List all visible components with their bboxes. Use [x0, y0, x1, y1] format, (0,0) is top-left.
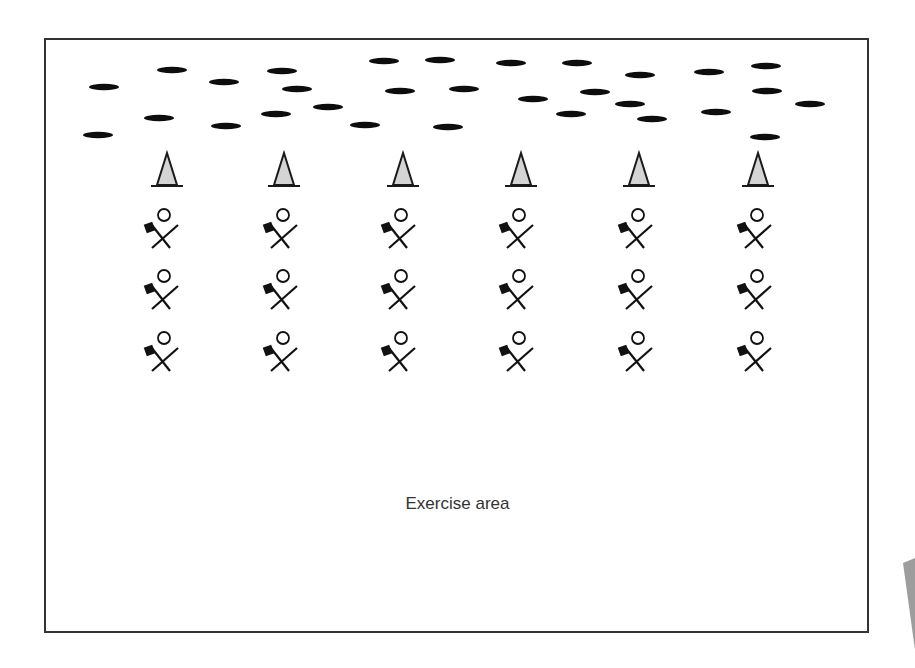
person-with-flag-icon [499, 332, 533, 371]
cone-icon [151, 153, 183, 186]
marker-disc-icon [750, 134, 780, 141]
marker-disc-icon [615, 101, 645, 108]
marker-disc-icon [261, 111, 291, 118]
diagram-canvas [0, 0, 915, 668]
person-with-flag-icon [144, 209, 178, 248]
cone-icon [387, 153, 419, 186]
person-with-flag-icon [737, 270, 771, 309]
people-grid [144, 209, 771, 371]
person-with-flag-icon [381, 332, 415, 371]
person-with-flag-icon [499, 270, 533, 309]
marker-disc-icon [694, 69, 724, 76]
corner-wedge-shape [903, 558, 915, 650]
marker-disc-icon [751, 63, 781, 70]
person-with-flag-icon [381, 209, 415, 248]
marker-disc-icon [433, 124, 463, 131]
marker-disc-icon [385, 88, 415, 95]
marker-disc-icon [752, 88, 782, 95]
marker-disc-icon [701, 109, 731, 116]
person-with-flag-icon [618, 270, 652, 309]
person-with-flag-icon [737, 332, 771, 371]
person-with-flag-icon [499, 209, 533, 248]
cones-row [151, 153, 774, 186]
person-with-flag-icon [737, 209, 771, 248]
marker-disc-icon [637, 116, 667, 123]
marker-disc-icon [562, 60, 592, 67]
marker-disc-icon [157, 67, 187, 74]
exercise-diagram: Exercise area [0, 0, 915, 668]
marker-disc-icon [369, 58, 399, 65]
person-with-flag-icon [263, 209, 297, 248]
cone-icon [623, 153, 655, 186]
marker-disc-icon [580, 89, 610, 96]
person-with-flag-icon [263, 332, 297, 371]
marker-disc-icon [449, 86, 479, 93]
marker-disc-icon [211, 123, 241, 130]
cone-icon [268, 153, 300, 186]
person-with-flag-icon [618, 332, 652, 371]
cone-icon [742, 153, 774, 186]
marker-disc-icon [282, 86, 312, 93]
marker-disc-icon [267, 68, 297, 75]
person-with-flag-icon [144, 332, 178, 371]
marker-discs [83, 57, 825, 141]
marker-disc-icon [556, 111, 586, 118]
exercise-area-label: Exercise area [0, 494, 915, 514]
marker-disc-icon [795, 101, 825, 108]
person-with-flag-icon [381, 270, 415, 309]
marker-disc-icon [425, 57, 455, 64]
marker-disc-icon [83, 132, 113, 139]
marker-disc-icon [350, 122, 380, 129]
marker-disc-icon [518, 96, 548, 103]
marker-disc-icon [625, 72, 655, 79]
person-with-flag-icon [618, 209, 652, 248]
person-with-flag-icon [144, 270, 178, 309]
marker-disc-icon [496, 60, 526, 67]
marker-disc-icon [209, 79, 239, 86]
marker-disc-icon [313, 104, 343, 111]
cone-icon [505, 153, 537, 186]
marker-disc-icon [144, 115, 174, 122]
marker-disc-icon [89, 84, 119, 91]
person-with-flag-icon [263, 270, 297, 309]
